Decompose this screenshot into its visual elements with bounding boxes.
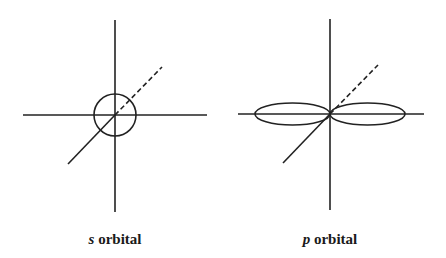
orbital-diagrams bbox=[0, 0, 446, 258]
p-orbital-label-letter: p bbox=[303, 231, 311, 247]
p-orbital-label-text: orbital bbox=[310, 231, 357, 247]
p-orbital-label: p orbital bbox=[303, 231, 358, 248]
p-orbital-diagram bbox=[238, 19, 424, 210]
p-y-axis-front bbox=[283, 114, 330, 163]
s-y-axis-front bbox=[68, 115, 115, 164]
s-y-axis-back bbox=[115, 67, 162, 115]
s-orbital-diagram bbox=[23, 20, 207, 212]
s-orbital-label: s orbital bbox=[89, 231, 142, 248]
s-orbital-label-text: orbital bbox=[94, 231, 141, 247]
